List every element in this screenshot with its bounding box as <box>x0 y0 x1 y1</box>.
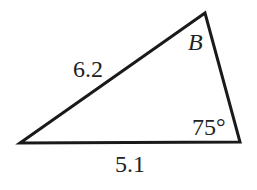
angle-label-right: 75° <box>192 115 226 139</box>
side-length-label-left: 6.2 <box>73 57 103 81</box>
vertex-label-b: B <box>188 30 203 54</box>
triangle-diagram: 6.2 5.1 B 75° <box>0 0 257 190</box>
side-length-label-bottom: 5.1 <box>115 152 145 176</box>
